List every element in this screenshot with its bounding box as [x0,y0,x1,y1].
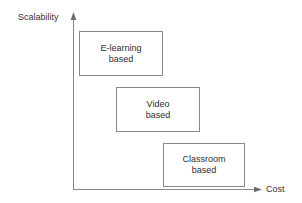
arrow-right-icon [254,187,262,193]
concept-box-label-line2: based [192,165,217,176]
concept-box-label-line2: based [146,110,171,121]
arrow-up-icon [71,12,77,20]
concept-box-video[interactable]: Video based [116,87,200,132]
concept-box-classroom[interactable]: Classroom based [163,143,245,187]
concept-box-label-line1: Video [147,99,170,110]
concept-box-label-line1: E-learning [100,43,141,54]
concept-box-label-line1: Classroom [182,154,225,165]
diagram-canvas: Scalability Cost E-learning based Video … [0,0,302,203]
x-axis-label: Cost [266,184,285,194]
y-axis-label: Scalability [18,12,59,22]
concept-box-e-learning[interactable]: E-learning based [79,31,163,76]
concept-box-label-line2: based [109,54,134,65]
